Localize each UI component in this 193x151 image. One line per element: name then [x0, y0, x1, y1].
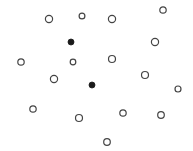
- filled-dot: [89, 82, 95, 88]
- dot-diagram: [0, 0, 193, 151]
- filled-dot: [68, 39, 74, 45]
- diagram-background: [0, 0, 193, 151]
